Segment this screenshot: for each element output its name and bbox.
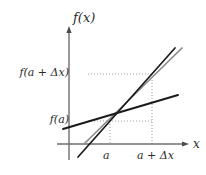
tangent-line (63, 95, 178, 129)
x-tick-label-a: a (103, 149, 110, 162)
x-axis-label: x (193, 137, 200, 151)
secant-line (78, 48, 175, 157)
value-label-f-a-plus-delta-x: f(a + Δx) (19, 66, 69, 79)
value-label-f-a: f(a) (50, 113, 69, 126)
y-axis-label: f(x) (73, 10, 95, 25)
axes (57, 26, 189, 160)
derivative-diagram: f(x) x f(a + Δx) f(a) a a + Δx (0, 0, 206, 175)
y-axis-arrowhead (66, 26, 71, 33)
x-tick-label-a-plus-delta-x: a + Δx (137, 149, 174, 162)
x-axis-arrowhead (182, 141, 189, 146)
